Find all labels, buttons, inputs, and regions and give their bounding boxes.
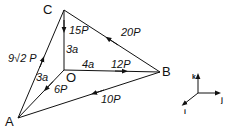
force-10P-label: 10P xyxy=(101,94,121,105)
axis-i-label: i xyxy=(184,108,186,115)
arrow-9root2P xyxy=(40,59,43,67)
point-C-label: C xyxy=(43,3,52,16)
axis-k-label: k xyxy=(192,73,196,80)
point-A-label: A xyxy=(5,115,14,128)
force-6P-label: 6P xyxy=(54,84,67,95)
force-20P-label: 20P xyxy=(121,27,141,38)
edge-OB xyxy=(64,70,160,72)
axis-j-label: j xyxy=(221,96,223,103)
point-O-label: O xyxy=(66,71,76,84)
force-12P-label: 12P xyxy=(111,59,131,70)
axis-i-icon xyxy=(184,93,198,104)
force-9root2P-label: 9√2 P xyxy=(8,53,37,64)
dim-OA-label: 3a xyxy=(36,72,48,83)
point-B-label: B xyxy=(162,65,171,78)
dim-OC-label: 3a xyxy=(66,44,78,55)
arrow-20P xyxy=(108,39,118,46)
force-15P-label: 15P xyxy=(69,25,89,36)
dim-OB-label: 4a xyxy=(82,59,94,70)
